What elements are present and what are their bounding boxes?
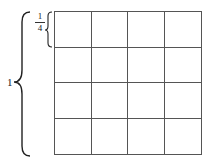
whole-label: 1 (7, 77, 13, 88)
grid-cell (128, 83, 165, 119)
grid-cell (55, 48, 92, 84)
grid-cell (165, 83, 202, 119)
unit-grid (54, 11, 202, 155)
grid-cell (128, 12, 165, 48)
grid-cell (92, 83, 129, 119)
quarter-fraction-label: 1 4 (35, 12, 45, 33)
grid-cell (55, 12, 92, 48)
whole-brace-icon (14, 12, 30, 156)
fraction-numerator: 1 (35, 12, 45, 23)
grid-cell (165, 48, 202, 84)
grid-cell (55, 119, 92, 155)
grid-cell (55, 83, 92, 119)
quarter-brace-icon (45, 12, 52, 47)
grid-cell (128, 119, 165, 155)
grid-cell (92, 12, 129, 48)
grid-cell (128, 48, 165, 84)
grid-cell (92, 119, 129, 155)
grid-cell (165, 119, 202, 155)
fraction-denominator: 4 (35, 23, 45, 33)
grid-cell (92, 48, 129, 84)
grid-cell (165, 12, 202, 48)
